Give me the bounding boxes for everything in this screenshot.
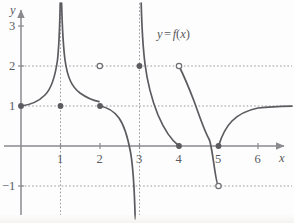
y-tick-label-3: 3: [9, 20, 15, 33]
y-tick-label-1: 1: [9, 100, 15, 113]
y-tick-label-minus-1: −1: [2, 180, 15, 193]
curve-label-y: y: [157, 27, 163, 41]
curve-label-equals: =: [163, 27, 173, 41]
curve-label-close-paren: ): [186, 27, 190, 41]
x-tick-label-2: 2: [97, 153, 103, 166]
branch-2-to-3: [100, 106, 135, 219]
marker-filled-5-0: [216, 143, 222, 149]
endpoint-markers: [18, 63, 221, 189]
x-tick-label-4: 4: [176, 153, 182, 166]
x-tick-label-6: 6: [255, 153, 261, 166]
x-axis-label: x: [279, 152, 285, 165]
branch-3-to-4: [141, 3, 179, 146]
curve-label: y=f(x): [157, 28, 190, 41]
y-axis-label: y: [10, 4, 16, 17]
y-tick-label-2: 2: [9, 60, 15, 73]
branch-0-to-1: [21, 3, 60, 106]
axes: [4, 10, 284, 215]
marker-filled-3-2: [137, 63, 143, 69]
marker-filled-2-1: [97, 103, 103, 109]
marker-filled-1-1: [58, 103, 64, 109]
x-tick-label-5: 5: [215, 153, 221, 166]
function-graph-figure: 1 2 3 4 5 6 3 2 1 −1 x y y=f(x): [0, 0, 294, 223]
branch-1-to-2: [62, 3, 99, 102]
branch-5-onward: [219, 106, 293, 146]
x-tick-label-1: 1: [57, 153, 63, 166]
marker-open-5-minus-1: [216, 183, 221, 188]
marker-filled-0-1: [18, 103, 24, 109]
x-tick-label-3: 3: [136, 153, 142, 166]
marker-open-4-2: [176, 63, 181, 68]
plot-canvas: [0, 0, 294, 223]
marker-filled-4-0: [176, 143, 182, 149]
branch-4-to-5: [179, 66, 219, 186]
marker-open-2-2: [97, 63, 102, 68]
